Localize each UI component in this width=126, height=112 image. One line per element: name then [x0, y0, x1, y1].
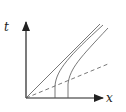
t-axis-label: t — [4, 20, 9, 34]
x-axis-label: x — [106, 91, 113, 105]
spacetime-diagram: t x — [0, 0, 126, 112]
simultaneity-line — [26, 64, 108, 98]
light-line — [26, 24, 100, 98]
